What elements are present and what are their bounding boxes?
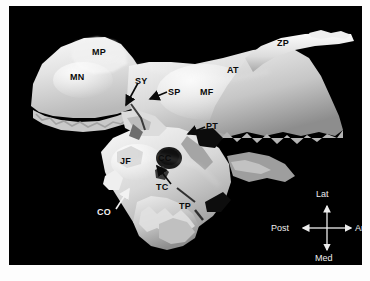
label-mf: MF (200, 88, 213, 97)
label-zp: ZP (277, 39, 289, 48)
compass-label-med: Med (315, 254, 333, 263)
label-at: AT (227, 66, 239, 75)
label-cc: CC (158, 154, 171, 163)
leader-arrow-sp (150, 92, 167, 99)
figure-plate: MP MN SY SP AT ZP MF PT JF CC TC TP CO (0, 0, 370, 281)
orientation-compass: Lat Ant Med Post (277, 188, 362, 265)
label-tp: TP (179, 202, 191, 211)
leader-arrow-sy (126, 83, 138, 105)
label-mn: MN (70, 73, 84, 82)
label-pt: PT (206, 122, 218, 131)
leader-arrow-co (116, 189, 129, 209)
label-jf: JF (120, 157, 131, 166)
compass-label-lat: Lat (316, 190, 329, 199)
specimen-photograph: MP MN SY SP AT ZP MF PT JF CC TC TP CO (9, 6, 362, 265)
label-sp: SP (168, 88, 180, 97)
label-sy: SY (135, 77, 147, 86)
label-co: CO (97, 208, 111, 217)
compass-label-ant: Ant (355, 224, 362, 233)
leader-arrow-pt (188, 127, 205, 134)
label-mp: MP (92, 48, 106, 57)
label-tc: TC (156, 183, 168, 192)
compass-label-post: Post (271, 224, 289, 233)
